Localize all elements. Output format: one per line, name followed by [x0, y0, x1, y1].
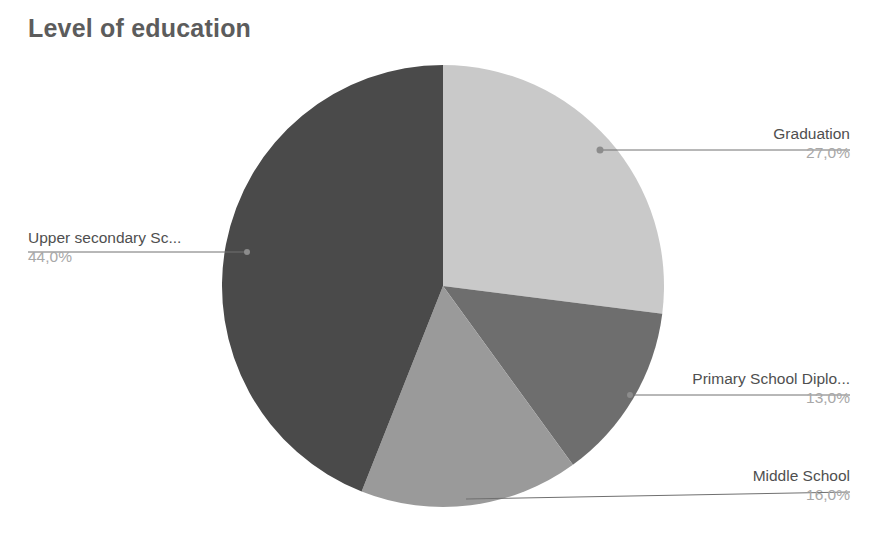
pie-label-primary-school-diploma-category: Primary School Diplo...: [692, 369, 850, 388]
pie-label-upper-secondary-school-value: 44,0%: [28, 247, 181, 266]
pie-label-upper-secondary-school: Upper secondary Sc... 44,0%: [28, 228, 181, 266]
pie-chart: [0, 0, 885, 543]
pie-label-graduation-category: Graduation: [773, 124, 850, 143]
pie-label-middle-school-category: Middle School: [753, 466, 850, 485]
pie-label-primary-school-diploma: Primary School Diplo... 13,0%: [692, 369, 850, 407]
pie-label-middle-school-value: 16,0%: [753, 485, 850, 504]
pie-label-graduation: Graduation 27,0%: [773, 124, 850, 162]
pie-slice-graduation[interactable]: [443, 65, 664, 314]
pie-label-graduation-value: 27,0%: [773, 143, 850, 162]
pie-label-middle-school: Middle School 16,0%: [753, 466, 850, 504]
pie-label-upper-secondary-school-category: Upper secondary Sc...: [28, 228, 181, 247]
pie-label-primary-school-diploma-value: 13,0%: [692, 388, 850, 407]
